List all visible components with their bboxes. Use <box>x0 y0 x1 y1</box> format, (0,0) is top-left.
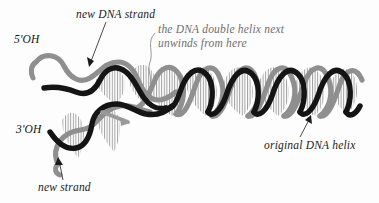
label-unwinds-note: the DNA double helix next unwinds from h… <box>158 23 284 50</box>
label-new-strand: new strand <box>38 181 91 195</box>
new-dna-strand-leader-arrow-icon <box>87 22 106 67</box>
dna-replication-figure: new DNA strand the DNA double helix next… <box>0 0 379 203</box>
label-original-dna-helix: original DNA helix <box>264 139 356 153</box>
label-unwinds-line1: the DNA double helix next <box>158 23 284 35</box>
three-prime-oh-end <box>56 164 60 175</box>
label-unwinds-line2: unwinds from here <box>158 37 247 49</box>
label-three-prime-oh: 3'OH <box>16 123 42 137</box>
five-prime-oh-end <box>31 62 36 78</box>
original-dna-helix-leader-icon <box>300 115 312 137</box>
label-five-prime-oh: 5'OH <box>14 33 40 47</box>
label-new-dna-strand: new DNA strand <box>76 8 155 22</box>
